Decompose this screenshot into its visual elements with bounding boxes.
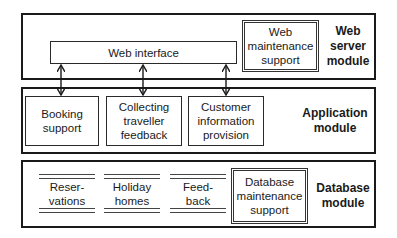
connection-arrows bbox=[0, 0, 397, 238]
